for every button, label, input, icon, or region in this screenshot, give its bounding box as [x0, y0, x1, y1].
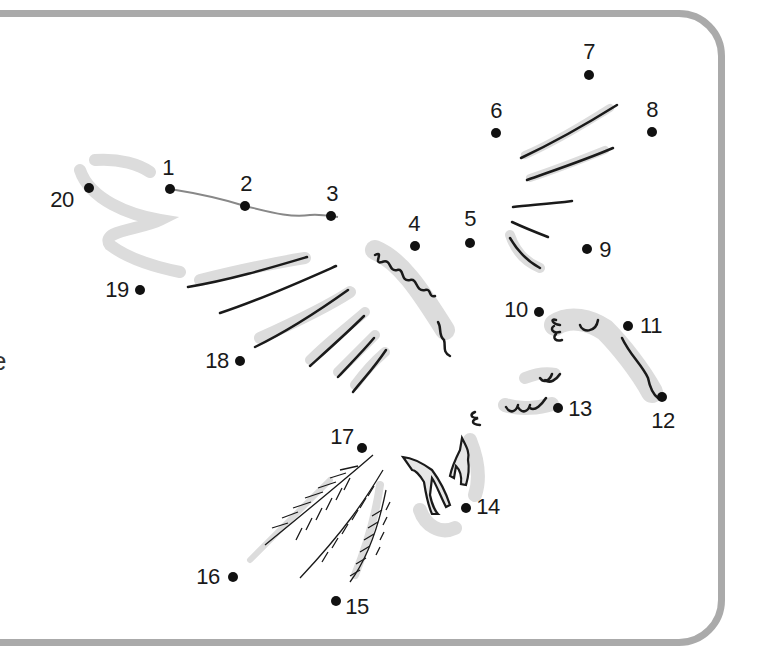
dot-9[interactable] — [582, 244, 592, 254]
dot-number-label: 20 — [50, 189, 73, 211]
dot-number-label: 19 — [105, 279, 128, 301]
dot-number-label: 14 — [476, 496, 499, 518]
dot-11[interactable] — [623, 321, 633, 331]
dot-3[interactable] — [326, 211, 336, 221]
connected-line — [170, 189, 338, 217]
dot-20[interactable] — [84, 183, 94, 193]
dot-7[interactable] — [584, 70, 594, 80]
dot-10[interactable] — [534, 307, 544, 317]
dot-19[interactable] — [135, 285, 145, 295]
dot-1[interactable] — [165, 184, 175, 194]
dot-12[interactable] — [657, 392, 667, 402]
dot-number-label: 7 — [583, 41, 595, 63]
dot-number-label: 11 — [640, 315, 662, 337]
dot-4[interactable] — [410, 241, 420, 251]
dot-number-label: 2 — [240, 173, 252, 195]
dot-to-dot-worksheet: e — [0, 0, 758, 660]
talons — [403, 438, 469, 514]
dot-17[interactable] — [357, 443, 367, 453]
dot-number-label: 4 — [408, 213, 420, 235]
dot-number-label: 9 — [599, 239, 611, 261]
dot-2[interactable] — [240, 201, 250, 211]
dot-number-label: 12 — [651, 410, 674, 432]
dot-14[interactable] — [461, 503, 471, 513]
dot-18[interactable] — [235, 356, 245, 366]
dot-16[interactable] — [228, 572, 238, 582]
dot-8[interactable] — [647, 127, 657, 137]
dot-number-label: 15 — [345, 596, 368, 618]
dot-6[interactable] — [491, 128, 501, 138]
dot-number-label: 3 — [326, 183, 338, 205]
dot-number-label: 8 — [646, 99, 658, 121]
dot-number-label: 1 — [162, 157, 174, 179]
dot-5[interactable] — [465, 238, 475, 248]
dot-number-label: 18 — [205, 350, 228, 372]
dot-number-label: 13 — [568, 398, 591, 420]
dot-number-label: 16 — [196, 566, 219, 588]
dot-number-label: 6 — [490, 100, 502, 122]
dot-15[interactable] — [331, 596, 341, 606]
dot-number-label: 5 — [464, 208, 476, 230]
dot-number-label: 17 — [330, 426, 353, 448]
dot-13[interactable] — [553, 403, 563, 413]
dot-number-label: 10 — [504, 299, 527, 321]
